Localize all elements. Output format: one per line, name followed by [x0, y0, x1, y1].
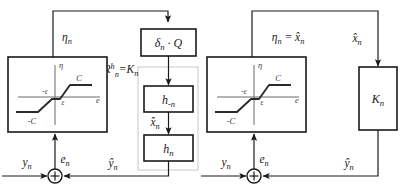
right-plot-pos-knee-label: ε	[261, 98, 264, 107]
left-block-diagram: ηn δn · Q Rhn=Kn h-n x̂n hn ŷn η	[2, 11, 198, 183]
right-plot-lower-sat-label: -C	[227, 116, 236, 126]
right-block-diagram: ηn = x̂n x̂n Kn ŷn η e C -C -ε ε en	[201, 11, 397, 183]
left-nonlinearity-block[interactable]	[8, 57, 107, 132]
right-wire-kn-to-sum	[263, 130, 378, 176]
left-plot-upper-sat-label: C	[76, 73, 82, 83]
figure-root: ηn δn · Q Rhn=Kn h-n x̂n hn ŷn η	[0, 0, 420, 186]
left-y-hat-n-label: ŷn	[107, 157, 117, 172]
left-plot-x-axis-label: e	[96, 95, 100, 105]
left-y-n-label: yn	[21, 156, 31, 171]
left-plot-lower-sat-label: -C	[28, 116, 37, 126]
left-e-n-label: en	[60, 153, 69, 168]
left-plot-neg-knee-label: -ε	[42, 87, 47, 96]
right-y-hat-n-label: ŷn	[343, 157, 353, 172]
left-eta-n-label: ηn	[62, 31, 72, 46]
right-x-hat-n-label: x̂n	[351, 32, 361, 47]
left-summing-junction[interactable]	[48, 169, 62, 183]
left-plot-pos-knee-label: ε	[62, 98, 65, 107]
left-R-equals-K-label: Rhn=Kn	[103, 62, 139, 79]
right-nonlinearity-block[interactable]	[207, 57, 306, 132]
right-plot-upper-sat-label: C	[275, 73, 281, 83]
right-eta-equals-xhat-label: ηn = x̂n	[272, 31, 305, 46]
block-delta-q-label: δn · Q	[155, 36, 183, 52]
right-e-n-label: en	[259, 153, 268, 168]
right-summing-junction[interactable]	[247, 169, 261, 183]
right-plot-neg-knee-label: -ε	[241, 87, 246, 96]
left-plot-y-axis-label: η	[59, 60, 63, 70]
left-x-hat-n-label: x̂n	[149, 116, 159, 131]
right-plot-x-axis-label: e	[295, 95, 299, 105]
right-y-n-label: yn	[220, 156, 230, 171]
right-plot-y-axis-label: η	[258, 60, 262, 70]
